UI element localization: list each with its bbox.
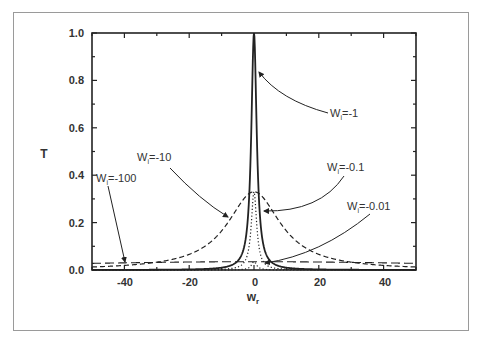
- annotation-wi-10: Wi=-10: [137, 151, 171, 165]
- x-tick-label: 20: [314, 276, 326, 288]
- ann-val: =-0.01: [359, 200, 391, 212]
- leader-wi-0.1: [264, 176, 344, 211]
- y-tick-label: 0.6: [69, 122, 84, 134]
- x-axis-title-main: w: [246, 290, 257, 304]
- y-tick-label: 0.8: [69, 74, 84, 86]
- ann-w: W: [327, 161, 338, 173]
- leader-wi-100: [108, 186, 125, 262]
- ann-w: W: [330, 107, 341, 119]
- x-axis-title-sub: r: [256, 297, 259, 306]
- x-tick-label: -40: [117, 276, 133, 288]
- x-axis-title: wr: [246, 290, 259, 306]
- leader-wi-0.01: [265, 214, 370, 263]
- x-tick-label: 40: [379, 276, 391, 288]
- annotation-wi-0.01: Wi=-0.01: [347, 200, 390, 214]
- y-tick-label: 0.0: [69, 264, 84, 276]
- y-tick-label: 1.0: [69, 27, 84, 39]
- y-axis-title: T: [40, 147, 48, 161]
- ann-w: W: [137, 151, 148, 163]
- x-tick-label: 0: [252, 276, 258, 288]
- y-tick-label: 0.2: [69, 217, 84, 229]
- ann-w: W: [96, 172, 107, 184]
- annotation-wi-100: Wi=-100: [96, 172, 136, 186]
- y-tick-label: 0.4: [69, 169, 85, 181]
- ann-w: W: [347, 200, 358, 212]
- ann-val: =-10: [149, 151, 171, 163]
- leader-wi-1: [259, 72, 328, 113]
- leader-wi-10: [170, 168, 228, 217]
- ann-val: =-1: [342, 107, 358, 119]
- annotation-wi-0.1: Wi=-0.1: [327, 161, 364, 175]
- ann-val: =-0.1: [339, 161, 364, 173]
- x-tick-label: -20: [182, 276, 198, 288]
- curve-wi-100: [92, 262, 416, 264]
- annotation-wi-1: Wi=-1: [330, 107, 358, 121]
- ann-val: =-100: [108, 172, 136, 184]
- transmission-chart: 0.0 0.2 0.4 0.6 0.8 1.0 -40 -20 0 20 40 …: [0, 0, 482, 349]
